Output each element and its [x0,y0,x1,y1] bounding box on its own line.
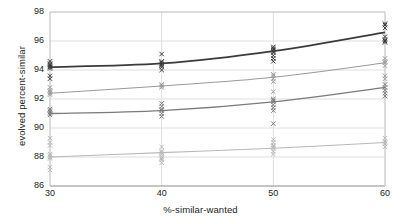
x-tick-label: 30 [35,188,65,198]
y-tick-label: 98 [20,6,44,16]
x-tick-label: 60 [370,188,400,198]
chart-figure: 86889092949698 30405060 evolved percent-… [0,0,401,224]
x-tick-label: 40 [147,188,177,198]
y-axis-title: evolved percent-similar [11,21,27,171]
y-axis-title-text: evolved percent-similar [16,46,27,146]
x-axis-title: %-similar-wanted [0,204,401,215]
x-tick-label: 50 [258,188,288,198]
